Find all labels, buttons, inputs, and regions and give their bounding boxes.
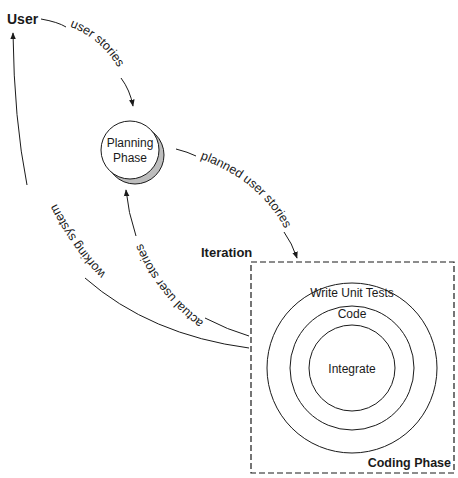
ring-write-unit-tests-label: Write Unit Tests [310,286,394,300]
ring-integrate-label: Integrate [328,362,376,376]
edge-planned-label: planned user stories [199,148,294,230]
diagram-canvas: User user stories Planning Phase planned… [0,0,458,478]
edge-actual-arrow [126,190,136,236]
edge-working-arrow [13,33,27,185]
edge-actual-label: actual user stories [132,242,206,331]
ring-code-label: Code [338,307,367,321]
edge-planned-line-a [176,149,196,156]
planning-phase-node: Planning Phase [101,121,164,184]
edge-user-stories-label: user stories [69,16,128,69]
edge-user-stories-line-a [41,19,66,27]
planning-label-line2: Phase [113,151,147,165]
iteration-rings: Write Unit Tests Code Integrate [267,283,437,453]
edge-planned-arrow [284,232,297,258]
edge-actual-user-stories: actual user stories [126,190,249,336]
edge-user-stories-arrow [121,78,133,106]
edge-working-label: working system [47,202,109,282]
edge-working-system: working system [13,33,249,348]
user-label: User [7,11,39,27]
coding-phase-label: Coding Phase [368,456,451,470]
planning-circle [101,121,159,179]
edge-planned-user-stories: planned user stories [176,148,297,258]
planning-label-line1: Planning [107,136,154,150]
edge-actual-line-a [205,318,249,336]
iteration-label: Iteration [201,245,252,260]
edge-user-stories: user stories [41,16,133,106]
